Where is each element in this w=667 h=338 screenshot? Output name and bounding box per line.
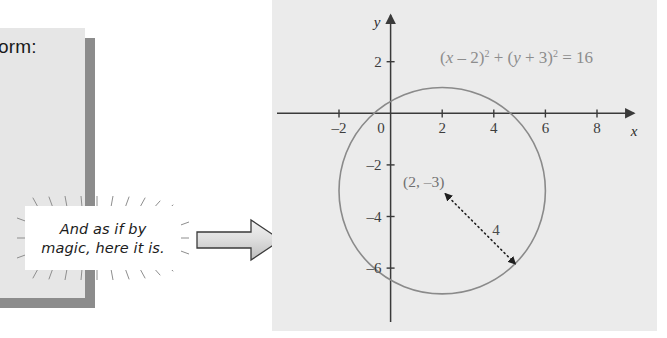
x-axis-label: x bbox=[630, 123, 638, 139]
x-tick-label-4: 4 bbox=[490, 120, 498, 136]
y-tick-label-neg6: –6 bbox=[366, 260, 383, 276]
page-text-fragment: orm: bbox=[0, 36, 37, 58]
left-page-region: orm: bbox=[0, 0, 272, 338]
coordinate-plane-graph: –2 0 2 4 6 8 x 2 –2 –4 –6 y (x – 2)2 + (… bbox=[272, 0, 657, 331]
graph-figure-panel: –2 0 2 4 6 8 x 2 –2 –4 –6 y (x – 2)2 + (… bbox=[272, 0, 657, 331]
radius-arrow bbox=[446, 194, 516, 264]
sunburst-callout: And as if by magic, here it is. bbox=[17, 196, 189, 280]
y-axis-label: y bbox=[372, 14, 381, 30]
eq-x-term: – 2 bbox=[453, 48, 479, 67]
callout-line-2: magic, here it is. bbox=[41, 240, 164, 256]
callout-line-1: And as if by bbox=[60, 221, 147, 237]
x-tick-label-8: 8 bbox=[593, 120, 601, 136]
eq-equals: = 16 bbox=[558, 48, 593, 67]
y-tick-label-2: 2 bbox=[374, 54, 382, 70]
x-tick-label-0: 0 bbox=[377, 120, 385, 136]
equation-label: (x – 2)2 + (y + 3)2 = 16 bbox=[440, 48, 593, 67]
x-tick-label-6: 6 bbox=[542, 120, 550, 136]
eq-y-term: + 3 bbox=[521, 48, 548, 67]
eq-plus: + bbox=[489, 48, 507, 67]
block-arrow-right-icon bbox=[196, 216, 282, 264]
eq-var-y: y bbox=[511, 48, 521, 67]
radius-label: 4 bbox=[492, 222, 500, 238]
block-arrow-right bbox=[196, 216, 282, 264]
callout-text: And as if by magic, here it is. bbox=[25, 206, 181, 270]
x-tick-label-neg2: –2 bbox=[331, 120, 347, 136]
x-tick-label-2: 2 bbox=[438, 120, 446, 136]
y-tick-label-neg2: –2 bbox=[366, 157, 382, 173]
y-tick-label-neg4: –4 bbox=[366, 209, 383, 225]
center-point-label: (2, –3) bbox=[403, 173, 444, 191]
